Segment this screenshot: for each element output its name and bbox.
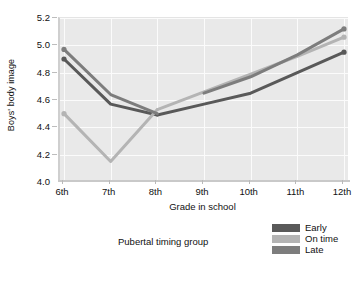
y-axis-tick-label: 5.2 — [37, 12, 50, 23]
x-axis-tick-label: 11th — [286, 186, 304, 197]
y-axis-tick-mark — [52, 126, 57, 127]
y-axis-tick-label: 4.0 — [37, 176, 50, 187]
x-axis-tick-mark — [155, 180, 156, 184]
x-axis-tick-label: 12th — [333, 186, 352, 197]
data-point-marker — [341, 35, 346, 40]
y-axis-tick-mark — [52, 154, 57, 155]
legend-color-swatch — [272, 224, 300, 232]
y-axis-tick-label: 4.2 — [37, 148, 50, 159]
x-axis-title: Grade in school — [0, 201, 357, 212]
series-layer — [60, 18, 348, 181]
y-axis-tick-label: 4.6 — [37, 94, 50, 105]
legend-title: Pubertal timing group — [118, 236, 208, 247]
plot-area — [58, 17, 348, 181]
legend-color-swatch — [272, 235, 300, 243]
y-axis-tick-labels: 4.04.24.44.64.85.05.2 — [20, 0, 54, 190]
legend-item[interactable]: On time — [272, 233, 354, 244]
legend-item-label: Early — [305, 223, 327, 233]
x-axis-tick-mark — [342, 180, 343, 184]
chart-legend: EarlyOn timeLate — [272, 222, 354, 255]
plot-inner — [60, 18, 348, 181]
legend-item[interactable]: Late — [272, 244, 354, 255]
x-axis-tick-label: 6th — [55, 186, 68, 197]
y-axis-tick-label: 4.4 — [37, 121, 50, 132]
x-axis-tick-label: 8th — [149, 186, 162, 197]
y-axis-tick-mark — [52, 99, 57, 100]
data-point-marker — [61, 47, 66, 52]
x-axis-tick-mark — [295, 180, 296, 184]
y-axis-tick-label: 5.0 — [37, 39, 50, 50]
legend-item-label: On time — [305, 234, 338, 244]
legend-item[interactable]: Early — [272, 222, 354, 233]
y-axis-tick-mark — [52, 44, 57, 45]
chart-figure: Boys' body image 4.04.24.44.64.85.05.2 6… — [0, 0, 357, 282]
x-axis-line — [58, 180, 350, 182]
y-axis-tick-label: 4.8 — [37, 66, 50, 77]
data-point-marker — [341, 50, 346, 55]
data-point-marker — [61, 111, 66, 116]
legend-color-swatch — [272, 246, 300, 254]
data-point-marker — [341, 26, 346, 31]
data-point-marker — [61, 56, 66, 61]
x-axis-tick-label: 9th — [195, 186, 208, 197]
x-axis-tick-labels: 6th7th8th9th10th11th12th — [0, 186, 357, 200]
series-line — [157, 52, 344, 115]
x-axis-tick-mark — [62, 180, 63, 184]
series-early — [61, 50, 346, 115]
y-axis-title: Boys' body image — [2, 0, 20, 190]
x-axis-tick-mark — [109, 180, 110, 184]
x-axis-tick-label: 7th — [102, 186, 115, 197]
x-axis-tick-label: 10th — [239, 186, 258, 197]
y-axis-title-text: Boys' body image — [6, 59, 16, 131]
series-line — [157, 37, 344, 109]
series-line — [64, 110, 157, 162]
x-axis-tick-mark — [249, 180, 250, 184]
y-axis-tick-mark — [52, 17, 57, 18]
x-axis-tick-mark — [202, 180, 203, 184]
y-axis-tick-mark — [52, 72, 57, 73]
legend-item-label: Late — [305, 245, 324, 255]
